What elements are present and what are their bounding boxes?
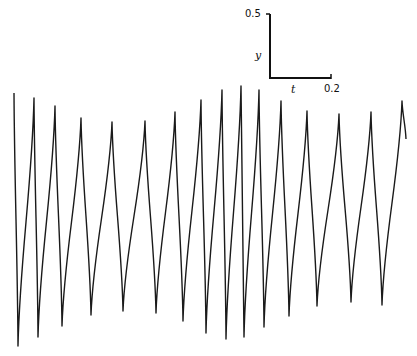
scale-t-value-label: 0.2 bbox=[324, 84, 340, 94]
waveform-line bbox=[14, 86, 406, 346]
scale-bar bbox=[266, 14, 331, 79]
scale-y-axis-label: y bbox=[255, 50, 261, 61]
waveform-plot bbox=[0, 0, 417, 356]
scale-y-value-label: 0.5 bbox=[245, 9, 261, 19]
scale-t-axis-label: t bbox=[291, 84, 295, 95]
